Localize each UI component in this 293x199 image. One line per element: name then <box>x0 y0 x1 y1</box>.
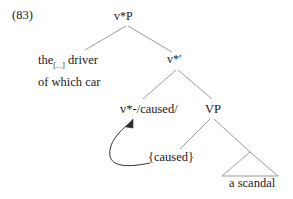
node-label-vp: VP <box>205 103 221 116</box>
branch-vp-to-complement <box>214 119 250 152</box>
specifier-noun: driver <box>65 53 98 67</box>
branch-vbar-to-littlev <box>143 70 176 99</box>
specifier-subscript: [...] <box>53 61 65 70</box>
head-movement-arrowhead <box>126 119 133 128</box>
specifier-determiner: the <box>38 53 53 67</box>
node-label-little-v: v*-/caused/ <box>120 103 178 116</box>
branch-vstarp-to-spec <box>85 26 126 50</box>
node-label-vstarp: v*P <box>114 10 133 22</box>
specifier-line-2: of which car <box>38 76 100 89</box>
complement-triangle <box>222 152 278 176</box>
node-label-vbar: v*′ <box>167 53 182 65</box>
terminal-a-scandal: a scandal <box>229 177 275 190</box>
syntax-tree-figure: (83) v*P the[...] driver of which car v*… <box>0 0 293 199</box>
branch-vstarp-to-vbar <box>128 26 172 52</box>
branch-vbar-to-vp <box>178 70 212 99</box>
example-number: (83) <box>12 9 33 22</box>
node-label-caused-set: {caused} <box>148 151 194 164</box>
head-movement-arrow-curve <box>110 122 150 166</box>
branch-vp-to-caused <box>180 119 210 149</box>
tree-branches <box>0 0 293 199</box>
specifier-line-1: the[...] driver <box>38 54 98 69</box>
